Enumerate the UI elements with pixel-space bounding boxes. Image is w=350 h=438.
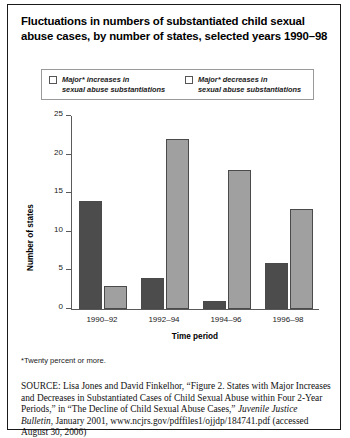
x-axis-line	[71, 309, 319, 310]
bar-major-increases	[141, 278, 164, 309]
x-tick-label: 1990–92	[71, 315, 133, 324]
bar-major-decreases	[166, 139, 189, 309]
bar-group	[195, 116, 257, 309]
y-tick-label-5: 5	[59, 263, 63, 272]
bar-major-decreases	[104, 286, 127, 309]
legend-label-major-increases: Major* increases in sexual abuse substan…	[62, 75, 165, 94]
legend-swatch-icon-major-decreases	[185, 76, 193, 84]
y-axis-title: Number of states	[26, 188, 35, 288]
bar-major-decreases	[290, 209, 313, 309]
bar-major-increases	[265, 263, 288, 309]
bars-layer	[71, 116, 319, 309]
x-tick-label: 1992–94	[133, 315, 195, 324]
y-tick-label-20: 20	[54, 148, 63, 157]
legend-swatch-icon-major-increases	[49, 76, 57, 84]
chart-legend: Major* increases in sexual abuse substan…	[41, 69, 314, 100]
page-title: Fluctuations in numbers of substantiated…	[21, 14, 329, 43]
x-axis-title: Time period	[71, 332, 319, 341]
source-label: SOURCE:	[21, 381, 61, 391]
bar-group	[71, 116, 133, 309]
y-tick-label-10: 10	[54, 225, 63, 234]
bar-major-increases	[203, 301, 226, 309]
footnote: *Twenty percent or more.	[21, 356, 106, 365]
chart-plot: Number of states 0510152025 1990–921992–…	[8, 105, 342, 355]
plot-area: 0510152025 1990–921992–941994–961996–98	[71, 116, 319, 310]
legend-item-major-increases: Major* increases in sexual abuse substan…	[49, 75, 165, 94]
bar-major-decreases	[228, 170, 251, 309]
bar-group	[133, 116, 195, 309]
x-tick-label: 1996–98	[257, 315, 319, 324]
x-tick-label: 1994–96	[195, 315, 257, 324]
bar-group	[257, 116, 319, 309]
y-tick-label-0: 0	[59, 302, 63, 311]
source-note: SOURCE: Lisa Jones and David Finkelhor, …	[21, 381, 331, 438]
y-tick-label-15: 15	[54, 186, 63, 195]
legend-label-major-decreases: Major* decreases in sexual abuse substan…	[198, 75, 301, 94]
y-tick-label-25: 25	[54, 109, 63, 118]
bar-major-increases	[79, 201, 102, 309]
figure-frame: Fluctuations in numbers of substantiated…	[7, 4, 341, 430]
legend-item-major-decreases: Major* decreases in sexual abuse substan…	[185, 75, 301, 94]
source-text-part2: , January 2001, www.ncjrs.gov/pdffiles1/…	[21, 416, 308, 438]
